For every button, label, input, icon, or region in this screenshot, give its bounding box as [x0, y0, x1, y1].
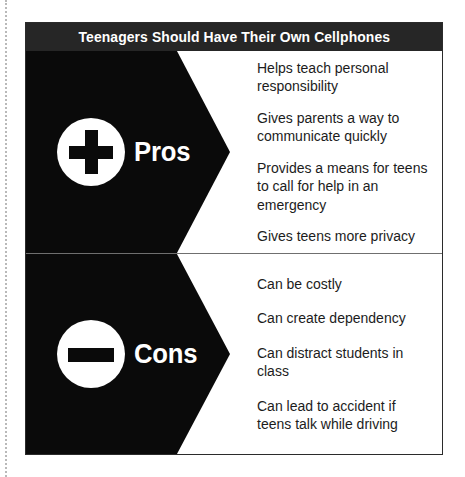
page-margin-dotted-rule	[5, 0, 7, 477]
figure-title: Teenagers Should Have Their Own Cellphon…	[78, 29, 390, 45]
cons-section: Cons Can be costly Can create dependency…	[26, 254, 442, 454]
minus-icon-horizontal-bar	[68, 348, 114, 362]
cons-label: Cons	[134, 341, 197, 368]
figure-title-bar: Teenagers Should Have Their Own Cellphon…	[26, 23, 442, 51]
cons-list: Can be costly Can create dependency Can …	[257, 254, 428, 454]
pros-arrow-banner: Pros	[26, 51, 230, 253]
list-item: Can be costly	[257, 275, 428, 294]
pros-section: Pros Helps teach personal responsibility…	[26, 51, 442, 253]
pros-label: Pros	[134, 139, 190, 166]
list-item: Can distract students in class	[257, 344, 428, 381]
pros-cons-figure: Teenagers Should Have Their Own Cellphon…	[25, 22, 443, 455]
plus-icon-vertical-bar	[85, 130, 98, 174]
cons-arrow-banner: Cons	[26, 254, 230, 454]
plus-icon	[57, 118, 125, 186]
pros-list: Helps teach personal responsibility Give…	[257, 51, 428, 253]
list-item: Gives parents a way to communicate quick…	[257, 109, 428, 146]
list-item: Can create dependency	[257, 309, 428, 328]
list-item: Gives teens more privacy	[257, 227, 428, 246]
minus-icon	[57, 320, 125, 388]
section-divider	[26, 253, 442, 254]
list-item: Helps teach personal responsibility	[257, 59, 428, 96]
list-item: Can lead to accident if teens talk while…	[257, 397, 428, 434]
list-item: Provides a means for teens to call for h…	[257, 159, 428, 215]
